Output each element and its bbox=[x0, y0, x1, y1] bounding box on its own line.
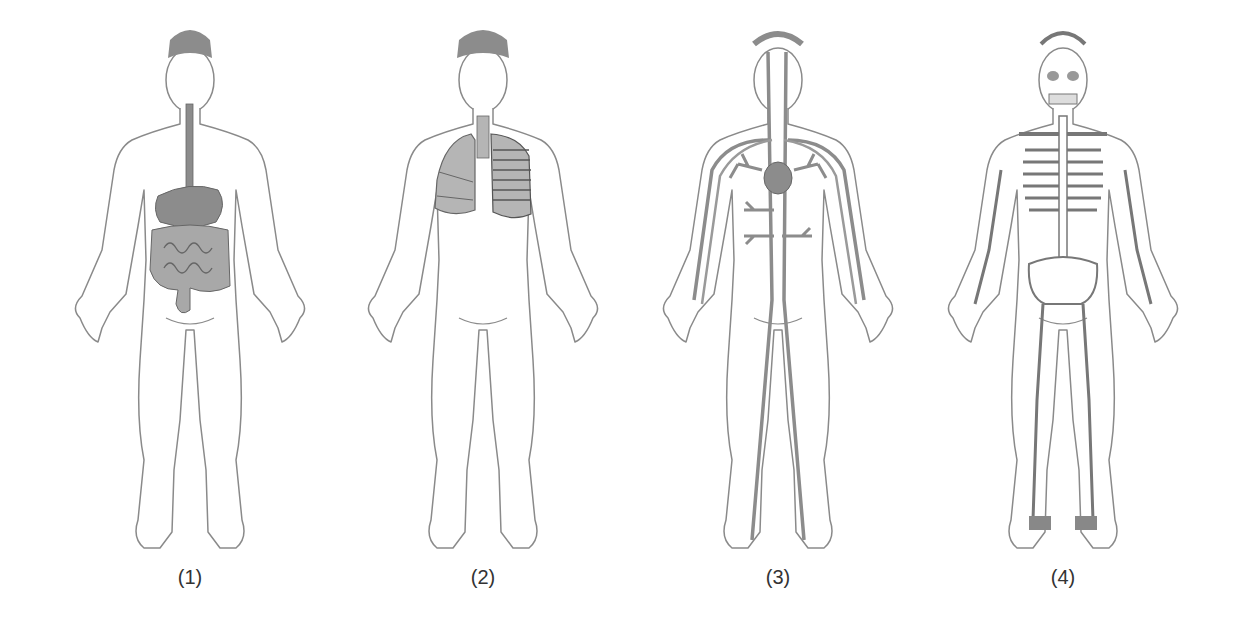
panel-circulatory-system: (3) bbox=[628, 0, 928, 638]
panel-skeletal-system: (4) bbox=[913, 0, 1213, 638]
panel-label-2: (2) bbox=[333, 566, 633, 589]
skeletal-system-figure bbox=[913, 0, 1213, 560]
panel-digestive-system: (1) bbox=[40, 0, 340, 638]
panel-label-1: (1) bbox=[40, 566, 340, 589]
digestive-system-figure bbox=[40, 0, 340, 560]
circulatory-system-figure bbox=[628, 0, 928, 560]
panel-respiratory-system: (2) bbox=[333, 0, 633, 638]
panel-label-4: (4) bbox=[913, 566, 1213, 589]
panel-label-3: (3) bbox=[628, 566, 928, 589]
respiratory-system-figure bbox=[333, 0, 633, 560]
